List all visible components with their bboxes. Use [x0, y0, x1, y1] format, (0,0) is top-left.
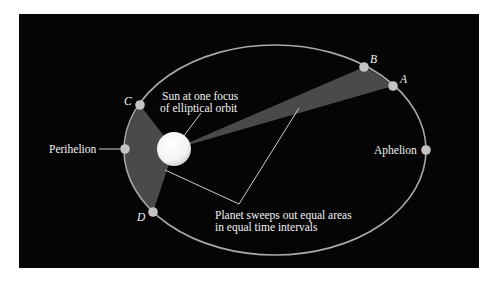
- perihelion-point: [120, 144, 130, 154]
- point-label-d: D: [136, 211, 146, 223]
- aphelion-label: Aphelion: [374, 144, 417, 157]
- sun-leader-line: [183, 113, 201, 137]
- planet-point-a: [388, 81, 398, 91]
- sun: [157, 132, 191, 166]
- sun-label-line1: Sun at one focus: [162, 90, 239, 102]
- area-label-line2: in equal time intervals: [215, 221, 318, 234]
- point-label-c: C: [124, 95, 132, 107]
- point-label-a: A: [399, 73, 408, 85]
- planet-point-b: [359, 62, 369, 72]
- point-label-b: B: [370, 53, 377, 65]
- perihelion-label: Perihelion: [49, 143, 97, 155]
- orbit-diagram: C D B A Perihelion Aphelion Sun at one f…: [0, 0, 495, 285]
- planet-point-d: [148, 207, 158, 217]
- planet-point-c: [135, 100, 145, 110]
- aphelion-point: [421, 145, 431, 155]
- sun-label-line2: of elliptical orbit: [160, 102, 238, 115]
